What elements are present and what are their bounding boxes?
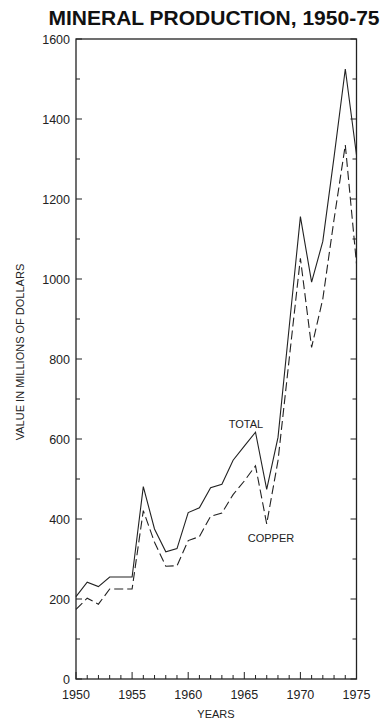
series-line-copper [76, 145, 357, 609]
y-tick-label: 0 [63, 673, 70, 687]
y-tick-label: 800 [49, 353, 70, 367]
chart-title: MINERAL PRODUCTION, 1950-75 [48, 6, 379, 29]
y-axis-label: VALUE IN MILLIONS OF DOLLARS [14, 264, 26, 440]
data-series: TOTALCOPPER [76, 69, 357, 609]
y-tick-label: 1400 [42, 113, 70, 127]
y-tick-label: 200 [49, 593, 70, 607]
x-tick-label: 1965 [230, 688, 258, 702]
y-tick-label: 400 [49, 513, 70, 527]
series-label-copper: COPPER [248, 532, 295, 544]
series-label-total: TOTAL [229, 418, 263, 430]
mineral-production-chart: MINERAL PRODUCTION, 1950-75 020040060080… [0, 0, 386, 728]
y-tick-label: 1000 [42, 273, 70, 287]
x-tick-label: 1960 [174, 688, 202, 702]
y-tick-label: 1600 [42, 33, 70, 47]
y-tick-label: 600 [49, 433, 70, 447]
x-tick-label: 1955 [118, 688, 146, 702]
x-tick-label: 1950 [62, 688, 90, 702]
x-tick-label: 1970 [286, 688, 314, 702]
x-axis-label: YEARS [197, 708, 234, 720]
plot-frame [76, 39, 357, 679]
x-tick-label: 1975 [343, 688, 371, 702]
y-tick-label: 1200 [42, 193, 70, 207]
plot-axes: 0200400600800100012001400160019501955196… [42, 33, 370, 703]
